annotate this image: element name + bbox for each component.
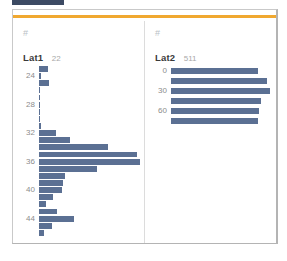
panel-lat1[interactable]: # Lat1 22 242832364044 — [13, 21, 145, 243]
bar — [39, 80, 49, 86]
bar — [39, 144, 108, 150]
bar — [171, 88, 270, 94]
bar — [39, 223, 52, 229]
axis-tick-label: 0 — [163, 67, 167, 75]
bar — [39, 159, 140, 165]
axis-tick-label: 36 — [26, 158, 35, 166]
bar — [171, 118, 258, 124]
bar — [39, 137, 70, 143]
bar — [39, 201, 46, 207]
bar — [39, 95, 40, 101]
tab-stub — [12, 0, 64, 5]
y-axis-lat1: 242832364044 — [17, 66, 37, 237]
histogram-lat1[interactable]: 242832364044 — [17, 66, 140, 237]
axis-tick-label: 24 — [26, 72, 35, 80]
axis-tick-label: 32 — [26, 129, 35, 137]
bar — [39, 123, 41, 129]
bar — [39, 194, 53, 200]
bar — [39, 130, 56, 136]
bar — [39, 180, 63, 186]
bar — [39, 209, 57, 215]
bar — [171, 68, 258, 74]
hash-icon: # — [155, 29, 270, 38]
visualization-window: # Lat1 22 242832364044 # Lat2 511 — [12, 9, 278, 244]
bar — [39, 230, 44, 236]
bars-lat1 — [39, 66, 140, 237]
field-name-label: Lat1 — [23, 52, 43, 63]
bar — [39, 166, 97, 172]
axis-tick-label: 30 — [158, 87, 167, 95]
axis-tick-label: 28 — [26, 101, 35, 109]
field-count-label: 22 — [52, 54, 61, 63]
bar — [39, 173, 65, 179]
bar — [171, 98, 261, 104]
panel-container: # Lat1 22 242832364044 # Lat2 511 — [13, 21, 276, 243]
field-name-label: Lat2 — [155, 52, 175, 63]
field-header-lat1: Lat1 22 — [23, 47, 138, 65]
orange-accent-rule — [13, 15, 276, 18]
bar — [171, 108, 259, 114]
axis-tick-label: 44 — [26, 215, 35, 223]
bar — [171, 78, 267, 84]
bars-lat2 — [171, 66, 270, 237]
field-count-label: 511 — [184, 54, 197, 63]
bar — [39, 152, 137, 158]
bar — [39, 187, 62, 193]
bar — [39, 66, 48, 72]
axis-tick-label: 60 — [158, 107, 167, 115]
bar — [39, 102, 40, 108]
panel-lat2[interactable]: # Lat2 511 03060 — [145, 21, 276, 243]
bar — [39, 109, 40, 115]
field-header-lat2: Lat2 511 — [155, 47, 270, 65]
hash-icon: # — [23, 29, 138, 38]
bar — [39, 73, 41, 79]
bar — [39, 116, 40, 122]
axis-tick-label: 40 — [26, 186, 35, 194]
bar — [39, 216, 74, 222]
y-axis-lat2: 03060 — [149, 66, 169, 237]
screenshot-root: # Lat1 22 242832364044 # Lat2 511 — [0, 0, 287, 261]
histogram-lat2[interactable]: 03060 — [149, 66, 270, 237]
bar — [39, 87, 40, 93]
